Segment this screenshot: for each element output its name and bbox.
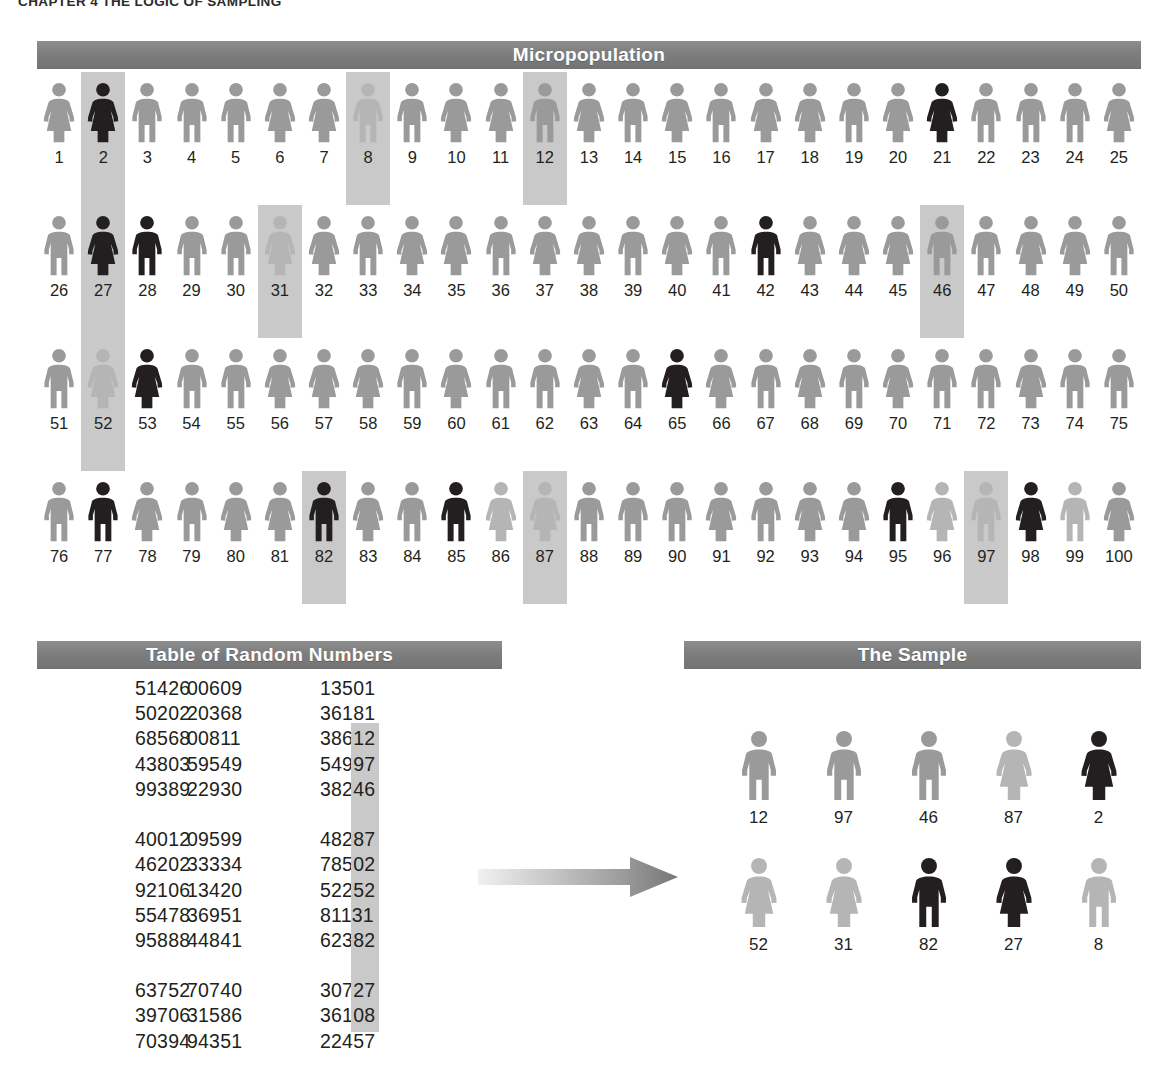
micropopulation-person-89[interactable]: 89 xyxy=(611,471,655,604)
micropopulation-person-42[interactable]: 42 xyxy=(744,205,788,338)
micropopulation-person-75[interactable]: 75 xyxy=(1097,338,1141,471)
micropopulation-person-79[interactable]: 79 xyxy=(169,471,213,604)
micropopulation-person-56[interactable]: 56 xyxy=(258,338,302,471)
micropopulation-person-85[interactable]: 85 xyxy=(434,471,478,604)
micropopulation-person-54[interactable]: 54 xyxy=(169,338,213,471)
micropopulation-person-71[interactable]: 71 xyxy=(920,338,964,471)
sample-person-87[interactable]: 87 xyxy=(971,730,1056,857)
micropopulation-person-30[interactable]: 30 xyxy=(214,205,258,338)
micropopulation-person-98[interactable]: 98 xyxy=(1008,471,1052,604)
random-number-tail-digits[interactable]: 82 xyxy=(353,928,375,953)
micropopulation-person-70[interactable]: 70 xyxy=(876,338,920,471)
micropopulation-person-27[interactable]: 27 xyxy=(81,205,125,338)
micropopulation-person-14[interactable]: 14 xyxy=(611,72,655,205)
micropopulation-person-99[interactable]: 99 xyxy=(1053,471,1097,604)
micropopulation-person-55[interactable]: 55 xyxy=(214,338,258,471)
micropopulation-person-97[interactable]: 97 xyxy=(964,471,1008,604)
sample-person-97[interactable]: 97 xyxy=(801,730,886,857)
micropopulation-person-80[interactable]: 80 xyxy=(214,471,258,604)
micropopulation-person-18[interactable]: 18 xyxy=(788,72,832,205)
micropopulation-person-29[interactable]: 29 xyxy=(169,205,213,338)
micropopulation-person-63[interactable]: 63 xyxy=(567,338,611,471)
micropopulation-person-1[interactable]: 1 xyxy=(37,72,81,205)
random-number-tail-digits[interactable]: 97 xyxy=(353,752,375,777)
micropopulation-person-10[interactable]: 10 xyxy=(434,72,478,205)
micropopulation-person-61[interactable]: 61 xyxy=(479,338,523,471)
micropopulation-person-23[interactable]: 23 xyxy=(1008,72,1052,205)
micropopulation-person-17[interactable]: 17 xyxy=(744,72,788,205)
micropopulation-person-35[interactable]: 35 xyxy=(434,205,478,338)
sample-person-46[interactable]: 46 xyxy=(886,730,971,857)
micropopulation-person-34[interactable]: 34 xyxy=(390,205,434,338)
micropopulation-person-9[interactable]: 9 xyxy=(390,72,434,205)
micropopulation-person-45[interactable]: 45 xyxy=(876,205,920,338)
micropopulation-person-92[interactable]: 92 xyxy=(744,471,788,604)
micropopulation-person-5[interactable]: 5 xyxy=(214,72,258,205)
sample-person-27[interactable]: 27 xyxy=(971,857,1056,984)
micropopulation-person-38[interactable]: 38 xyxy=(567,205,611,338)
micropopulation-person-37[interactable]: 37 xyxy=(523,205,567,338)
random-number-tail-digits[interactable]: 01 xyxy=(353,676,375,701)
micropopulation-person-24[interactable]: 24 xyxy=(1053,72,1097,205)
micropopulation-person-48[interactable]: 48 xyxy=(1008,205,1052,338)
micropopulation-person-100[interactable]: 100 xyxy=(1097,471,1141,604)
micropopulation-person-74[interactable]: 74 xyxy=(1053,338,1097,471)
micropopulation-person-32[interactable]: 32 xyxy=(302,205,346,338)
micropopulation-person-16[interactable]: 16 xyxy=(699,72,743,205)
micropopulation-person-73[interactable]: 73 xyxy=(1008,338,1052,471)
micropopulation-person-31[interactable]: 31 xyxy=(258,205,302,338)
micropopulation-person-83[interactable]: 83 xyxy=(346,471,390,604)
micropopulation-person-52[interactable]: 52 xyxy=(81,338,125,471)
micropopulation-person-76[interactable]: 76 xyxy=(37,471,81,604)
micropopulation-person-44[interactable]: 44 xyxy=(832,205,876,338)
micropopulation-person-26[interactable]: 26 xyxy=(37,205,81,338)
micropopulation-person-6[interactable]: 6 xyxy=(258,72,302,205)
micropopulation-person-67[interactable]: 67 xyxy=(744,338,788,471)
sample-person-2[interactable]: 2 xyxy=(1056,730,1141,857)
micropopulation-person-58[interactable]: 58 xyxy=(346,338,390,471)
micropopulation-person-60[interactable]: 60 xyxy=(434,338,478,471)
micropopulation-person-36[interactable]: 36 xyxy=(479,205,523,338)
micropopulation-person-69[interactable]: 69 xyxy=(832,338,876,471)
sample-person-8[interactable]: 8 xyxy=(1056,857,1141,984)
micropopulation-person-90[interactable]: 90 xyxy=(655,471,699,604)
micropopulation-person-50[interactable]: 50 xyxy=(1097,205,1141,338)
sample-person-52[interactable]: 52 xyxy=(716,857,801,984)
micropopulation-person-68[interactable]: 68 xyxy=(788,338,832,471)
micropopulation-person-20[interactable]: 20 xyxy=(876,72,920,205)
sample-person-31[interactable]: 31 xyxy=(801,857,886,984)
micropopulation-person-77[interactable]: 77 xyxy=(81,471,125,604)
micropopulation-person-39[interactable]: 39 xyxy=(611,205,655,338)
micropopulation-person-95[interactable]: 95 xyxy=(876,471,920,604)
micropopulation-person-8[interactable]: 8 xyxy=(346,72,390,205)
random-number-tail-digits[interactable]: 27 xyxy=(353,978,375,1003)
micropopulation-person-62[interactable]: 62 xyxy=(523,338,567,471)
micropopulation-person-2[interactable]: 2 xyxy=(81,72,125,205)
micropopulation-person-4[interactable]: 4 xyxy=(169,72,213,205)
micropopulation-person-93[interactable]: 93 xyxy=(788,471,832,604)
micropopulation-person-87[interactable]: 87 xyxy=(523,471,567,604)
micropopulation-person-91[interactable]: 91 xyxy=(699,471,743,604)
micropopulation-person-57[interactable]: 57 xyxy=(302,338,346,471)
micropopulation-person-41[interactable]: 41 xyxy=(699,205,743,338)
micropopulation-person-19[interactable]: 19 xyxy=(832,72,876,205)
random-number-tail-digits[interactable]: 02 xyxy=(353,852,375,877)
micropopulation-person-33[interactable]: 33 xyxy=(346,205,390,338)
micropopulation-person-43[interactable]: 43 xyxy=(788,205,832,338)
random-number-tail-digits[interactable]: 57 xyxy=(353,1029,375,1054)
micropopulation-person-64[interactable]: 64 xyxy=(611,338,655,471)
random-number-tail-digits[interactable]: 31 xyxy=(352,903,374,928)
random-number-tail-digits[interactable]: 52 xyxy=(353,878,375,903)
random-number-tail-digits[interactable]: 46 xyxy=(353,777,375,802)
micropopulation-person-81[interactable]: 81 xyxy=(258,471,302,604)
micropopulation-person-21[interactable]: 21 xyxy=(920,72,964,205)
micropopulation-person-88[interactable]: 88 xyxy=(567,471,611,604)
random-number-tail-digits[interactable]: 87 xyxy=(353,827,375,852)
micropopulation-person-28[interactable]: 28 xyxy=(125,205,169,338)
micropopulation-person-96[interactable]: 96 xyxy=(920,471,964,604)
micropopulation-person-7[interactable]: 7 xyxy=(302,72,346,205)
micropopulation-person-82[interactable]: 82 xyxy=(302,471,346,604)
micropopulation-person-40[interactable]: 40 xyxy=(655,205,699,338)
micropopulation-person-59[interactable]: 59 xyxy=(390,338,434,471)
micropopulation-person-11[interactable]: 11 xyxy=(479,72,523,205)
